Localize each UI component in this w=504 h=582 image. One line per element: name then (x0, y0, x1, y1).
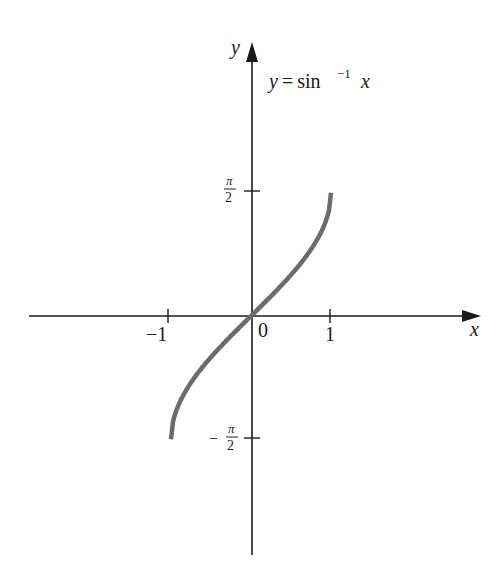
svg-text:2: 2 (225, 190, 232, 205)
svg-text:y=sin: y=sin (267, 70, 321, 93)
svg-text:π: π (228, 421, 235, 436)
y-axis-label: y (229, 36, 240, 59)
y-tick-label-neg-pi-half: − π 2 (209, 421, 238, 453)
svg-text:π: π (226, 173, 233, 188)
function-variable: x (360, 70, 370, 92)
origin-label: 0 (258, 319, 268, 341)
svg-text:2: 2 (227, 438, 234, 453)
arcsin-plot: y x y=sin −1 x −1 1 0 π 2 − π 2 (0, 0, 504, 582)
y-tick-label-pi-half: π 2 (224, 173, 236, 205)
x-axis-label: x (469, 318, 479, 340)
svg-text:−: − (209, 430, 218, 447)
function-exponent: −1 (337, 66, 351, 81)
function-label: y=sin −1 x (267, 66, 370, 93)
x-tick-label-neg1: −1 (146, 323, 167, 345)
y-axis-arrow-icon (246, 42, 258, 62)
x-tick-label-1: 1 (325, 323, 335, 345)
